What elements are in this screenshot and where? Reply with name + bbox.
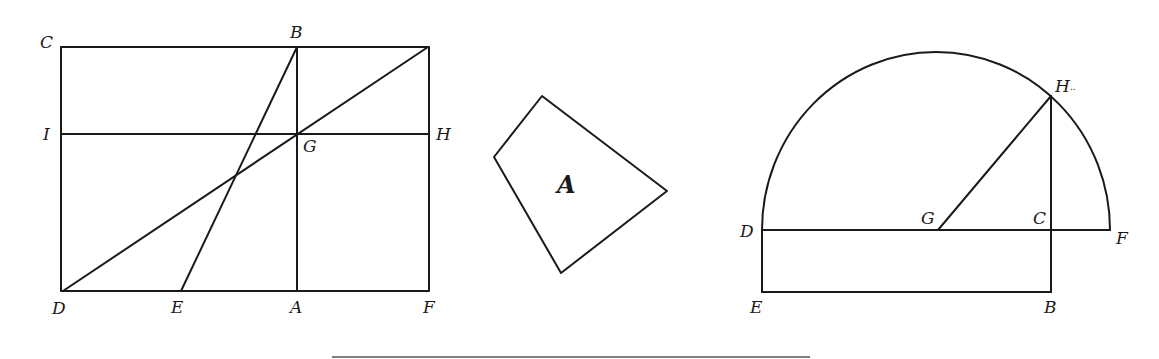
rectangle-figure: C B I H G D E A F: [40, 22, 452, 318]
label-F: F: [422, 297, 436, 317]
label-A-quadrilateral: A: [555, 170, 576, 199]
geometry-diagrams: C B I H G D E A F A H .. D G C F E B: [0, 0, 1159, 359]
label-G: G: [921, 208, 935, 228]
quadrilateral-figure: A: [494, 96, 667, 273]
label-A: A: [288, 297, 302, 317]
label-H-dots: ..: [1070, 82, 1076, 92]
label-D: D: [51, 298, 66, 318]
label-C: C: [1033, 208, 1046, 228]
quadrilateral-shape: [494, 96, 667, 273]
label-B: B: [289, 22, 303, 42]
line-EB: [181, 47, 297, 291]
label-I: I: [42, 124, 50, 144]
label-D: D: [739, 221, 754, 241]
label-H: H: [435, 124, 452, 144]
label-G: G: [303, 136, 317, 156]
label-H: H: [1054, 76, 1071, 96]
label-E: E: [170, 297, 184, 317]
label-B: B: [1043, 297, 1057, 317]
semicircle-figure: H .. D G C F E B: [739, 52, 1129, 317]
diagonal-D-topright: [63, 47, 428, 291]
label-F: F: [1115, 228, 1129, 248]
label-C: C: [40, 32, 53, 52]
label-E: E: [749, 297, 763, 317]
